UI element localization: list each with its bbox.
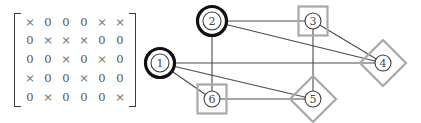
matrix-cell-nonzero: × [57, 51, 75, 70]
graph-node-1[interactable]: 1 [146, 49, 175, 78]
graph-node-2[interactable]: 2 [198, 7, 227, 36]
node-label: 2 [209, 15, 216, 28]
matrix-cell-nonzero: × [57, 32, 75, 51]
matrix-cell-nonzero: × [93, 51, 111, 70]
matrix-cell-nonzero: × [39, 88, 57, 107]
graph-canvas: 123456 [140, 0, 421, 123]
matrix-left-bracket [14, 13, 21, 107]
node-label: 3 [310, 15, 317, 28]
matrix-cell-zero: 0 [93, 88, 111, 107]
matrix-cell-zero: 0 [57, 69, 75, 88]
matrix-cell-nonzero: × [39, 32, 57, 51]
matrix-cell-zero: 0 [75, 13, 93, 32]
matrix-cell-zero: 0 [57, 88, 75, 107]
matrix-cell-zero: 0 [39, 69, 57, 88]
matrix-cell-zero: 0 [75, 51, 93, 70]
graph-edge [160, 63, 313, 99]
matrix-cell-zero: 0 [93, 69, 111, 88]
sparse-matrix: ×000××0×××0000×0×0×00×000×000× [14, 13, 136, 107]
matrix-cell-zero: 0 [21, 32, 39, 51]
matrix-cell-zero: 0 [75, 88, 93, 107]
node-label: 4 [380, 57, 387, 70]
edge-layer [160, 21, 383, 99]
matrix-cell-zero: 0 [39, 13, 57, 32]
matrix-cell-nonzero: × [75, 69, 93, 88]
matrix-grid: ×000××0×××0000×0×0×00×000×000× [21, 13, 129, 107]
matrix-cell-nonzero: × [75, 32, 93, 51]
node-label: 6 [209, 93, 216, 106]
matrix-cell-zero: 0 [57, 13, 75, 32]
matrix-cell-nonzero: × [21, 13, 39, 32]
matrix-cell-nonzero: × [21, 69, 39, 88]
matrix-cell-zero: 0 [39, 51, 57, 70]
graph-diagram: 123456 [140, 0, 421, 123]
matrix-cell-zero: 0 [111, 51, 129, 70]
graph-edge [313, 21, 383, 63]
matrix-cell-zero: 0 [21, 88, 39, 107]
node-label: 1 [157, 57, 164, 70]
matrix-right-bracket [129, 13, 136, 107]
matrix-cell-zero: 0 [111, 69, 129, 88]
node-layer: 123456 [146, 7, 407, 123]
matrix-cell-nonzero: × [111, 88, 129, 107]
matrix-cell-nonzero: × [93, 13, 111, 32]
figure-root: ×000××0×××0000×0×0×00×000×000× 123456 [0, 0, 421, 123]
matrix-cell-zero: 0 [111, 32, 129, 51]
matrix-cell-zero: 0 [21, 51, 39, 70]
node-label: 5 [310, 93, 317, 106]
matrix-cell-nonzero: × [111, 13, 129, 32]
matrix-cell-zero: 0 [93, 32, 111, 51]
